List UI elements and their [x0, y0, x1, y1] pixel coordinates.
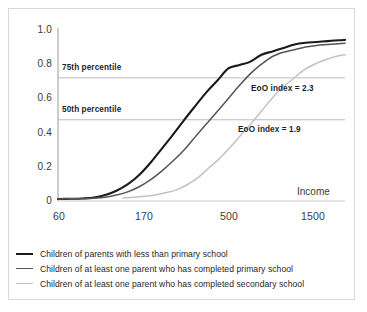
xtick-label-1500: 1500	[293, 210, 333, 222]
chart-legend: Children of parents with less than prima…	[16, 246, 346, 291]
legend-item-1[interactable]: Children of at least one parent who has …	[16, 261, 346, 276]
legend-swatch-icon	[16, 283, 33, 284]
ytick-label-0.8: 0.8	[28, 58, 52, 69]
xtick-label-500: 500	[209, 210, 249, 222]
legend-label: Children of at least one parent who has …	[40, 264, 293, 274]
series-line-2	[123, 55, 345, 198]
ytick-label-0.2: 0.2	[28, 161, 52, 172]
legend-label: Children of at least one parent who has …	[40, 279, 304, 289]
chart-figure: 1.0 0.8 0.6 0.4 0.2 0 60 170 500 1500 Fr…	[0, 0, 367, 312]
ytick-label-0: 0	[28, 195, 52, 206]
xtick-label-60: 60	[39, 210, 79, 222]
legend-item-2[interactable]: Children of at least one parent who has …	[16, 276, 346, 291]
legend-label: Children of parents with less than prima…	[40, 249, 228, 259]
eoo-index-high-label: EoO index = 2.3	[251, 84, 314, 93]
legend-swatch-icon	[16, 268, 33, 269]
x-axis-title: Income	[297, 186, 330, 197]
ytick-label-0.6: 0.6	[28, 92, 52, 103]
p50-line-label: 50th percentile	[62, 105, 121, 114]
legend-swatch-icon	[16, 253, 33, 255]
p75-line-label: 75th percentile	[62, 63, 121, 72]
ytick-label-1.0: 1.0	[28, 24, 52, 35]
xtick-label-170: 170	[124, 210, 164, 222]
eoo-index-low-label: EoO index = 1.9	[238, 125, 301, 134]
legend-item-0[interactable]: Children of parents with less than prima…	[16, 246, 346, 261]
ytick-label-0.4: 0.4	[28, 127, 52, 138]
